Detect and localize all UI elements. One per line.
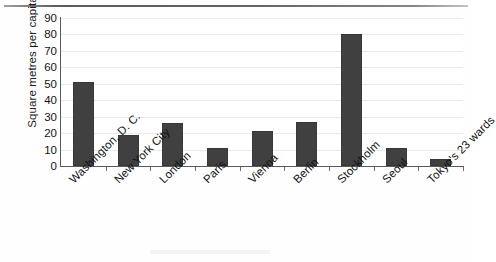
y-tick-label: 0 [27, 160, 57, 172]
x-tick-mark [463, 167, 464, 171]
scan-artifact [150, 250, 270, 254]
gridline [61, 100, 463, 101]
y-tick-label: 60 [27, 61, 57, 73]
y-tick-label: 40 [27, 94, 57, 106]
x-tick-mark [240, 167, 241, 171]
gridline [61, 117, 463, 118]
gridline [61, 67, 463, 68]
plot-area [61, 18, 463, 166]
y-tick-label: 50 [27, 78, 57, 90]
x-tick-mark [374, 167, 375, 171]
x-tick-mark [106, 167, 107, 171]
y-tick-label: 30 [27, 111, 57, 123]
x-tick-mark [150, 167, 151, 171]
y-tick-label: 20 [27, 127, 57, 139]
x-tick-mark [284, 167, 285, 171]
y-tick-label: 70 [27, 45, 57, 57]
bar [341, 34, 362, 166]
page-top-rule [4, 5, 468, 7]
y-tick-label: 90 [27, 12, 57, 24]
gridline [61, 18, 463, 19]
x-tick-mark [418, 167, 419, 171]
y-tick-label: 80 [27, 28, 57, 40]
gridline [61, 51, 463, 52]
x-tick-mark [195, 167, 196, 171]
gridline [61, 84, 463, 85]
gridline [61, 34, 463, 35]
y-axis-tick-labels: 0102030405060708090 [21, 18, 57, 166]
y-tick-label: 10 [27, 144, 57, 156]
x-tick-mark [329, 167, 330, 171]
